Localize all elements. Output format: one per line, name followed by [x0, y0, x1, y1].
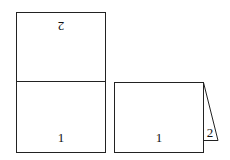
unfolded-sheet: 2 1 — [17, 13, 106, 153]
back-flap-label: 2 — [207, 125, 214, 140]
front-label: 1 — [156, 130, 163, 145]
bottom-panel-label: 1 — [58, 130, 65, 145]
folded-card-diagram: 2 1 1 2 — [0, 0, 230, 160]
top-panel-label: 2 — [58, 19, 65, 34]
folded-card: 1 2 — [115, 83, 219, 153]
